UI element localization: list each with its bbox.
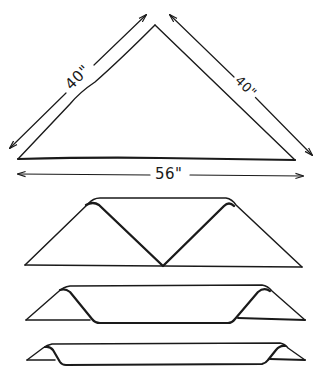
base-length-label: 56" <box>153 167 185 182</box>
folding-diagram: 40" 40" 56" <box>0 0 320 383</box>
step-3-folded-band <box>26 285 305 323</box>
step-4-narrow-cravat <box>27 343 305 365</box>
step-2-folded-triangle <box>25 198 302 267</box>
